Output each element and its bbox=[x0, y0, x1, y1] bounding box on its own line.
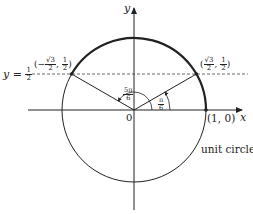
point-right-label: (√32, 12) bbox=[200, 57, 230, 72]
x-axis-label: x bbox=[240, 112, 246, 123]
angle-pi-6-label: π6 bbox=[158, 97, 164, 111]
angle-5pi-6-label: 5π6 bbox=[123, 87, 133, 101]
point-left bbox=[70, 72, 74, 76]
unit-circle-diagram bbox=[0, 0, 253, 214]
unit-circle-label: unit circle bbox=[201, 144, 253, 155]
y-axis-label: y bbox=[124, 3, 130, 14]
dashed-line-label: y = 12 bbox=[3, 67, 32, 82]
point-right bbox=[195, 72, 199, 76]
origin-label: 0 bbox=[126, 113, 132, 123]
angle-arc-pi-6 bbox=[165, 92, 170, 110]
fraction-one-half: 12 bbox=[25, 67, 31, 82]
equation-lhs: y = bbox=[3, 68, 22, 81]
point-left-label: (−√32, 12) bbox=[34, 57, 72, 72]
point-1-0-label: (1, 0) bbox=[207, 113, 235, 124]
